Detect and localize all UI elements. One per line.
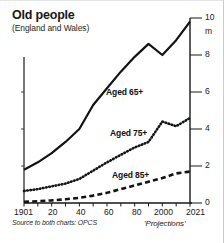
x-axis-label: 20 [48,208,57,217]
x-axis-label: 1901 [14,208,33,217]
series-label-2: Aged 75+ [110,128,147,138]
y-axis-label: m [205,27,212,36]
x-axis-label: 2000 [154,208,173,217]
chart-figure: Old people (England and Wales) 10m86420 … [0,0,224,243]
series-label-3: Aged 85+ [112,170,149,180]
series-lines [24,22,190,202]
x-axis-label: 60 [104,208,113,217]
y-axis-label: 10 [205,13,214,22]
x-axis-label: 80 [132,208,141,217]
x-axis-label: 2021 [186,208,205,217]
y-axis-label: 4 [205,124,210,133]
y-axis-label: 0 [205,198,210,207]
series-label-1: Aged 65+ [106,87,143,97]
y-axis-label: 8 [205,50,210,59]
axis-lines [24,18,192,203]
y-axis-label: 6 [205,87,210,96]
x-axis-label: 40 [76,208,85,217]
y-axis-label: 2 [205,161,210,170]
projections-note: 'Projections' [144,219,185,228]
source-note: Source to both charts: OPCS [12,219,97,226]
